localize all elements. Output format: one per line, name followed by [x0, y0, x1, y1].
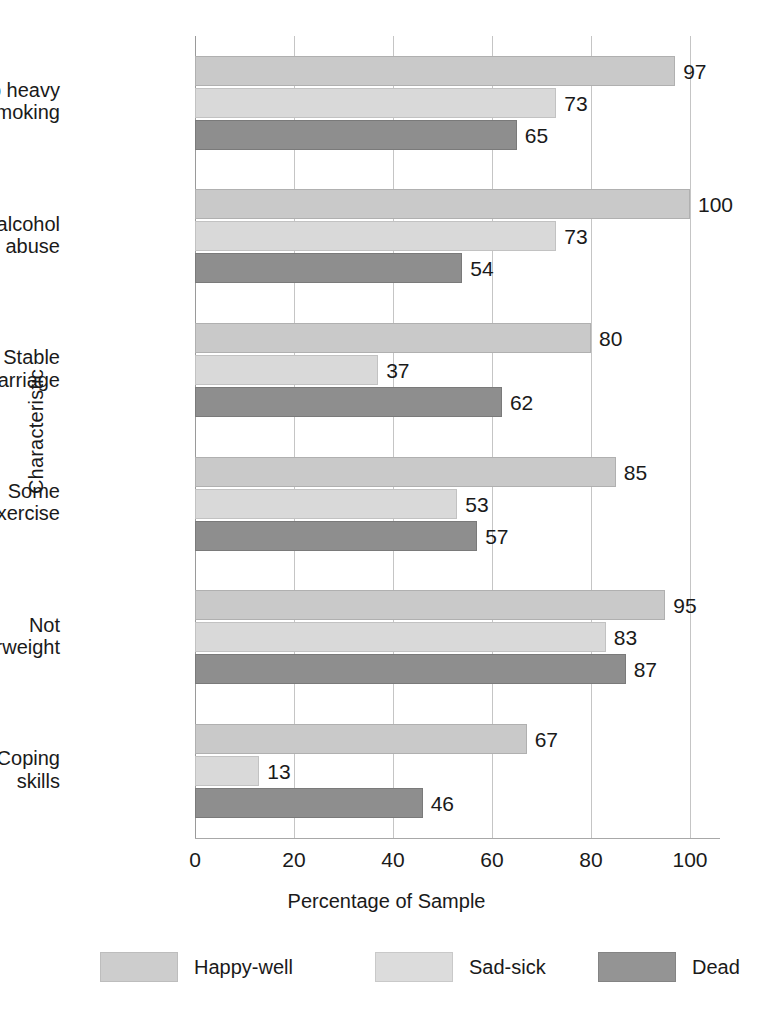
bar-value-label: 53 [465, 494, 488, 515]
bar-value-label: 46 [431, 793, 454, 814]
bar-sad-sick [195, 355, 378, 385]
category-label: No alcoholabuse [0, 213, 60, 258]
category-label: Notoverweight [0, 614, 60, 659]
bar-sad-sick [195, 756, 259, 786]
legend-label: Sad-sick [469, 956, 546, 979]
bar-dead [195, 253, 462, 283]
bar-value-label: 37 [386, 360, 409, 381]
category-label-line: smoking [0, 101, 60, 123]
bar-group: 977365 [195, 36, 690, 170]
bar-value-label: 100 [698, 194, 733, 215]
category-label-line: Coping [0, 747, 60, 769]
bar-group: 855357 [195, 437, 690, 571]
legend-swatch [598, 952, 676, 982]
bar-sad-sick [195, 622, 606, 652]
bar-value-label: 85 [624, 462, 647, 483]
bar-value-label: 13 [267, 761, 290, 782]
legend-label: Dead [692, 956, 740, 979]
bar-value-label: 87 [634, 659, 657, 680]
x-tick-80: 80 [561, 848, 621, 872]
bar-value-label: 83 [614, 627, 637, 648]
legend: Happy-wellSad-sickDead [0, 952, 773, 998]
category-label: Someexercise [0, 480, 60, 525]
category-label-line: marriage [0, 369, 60, 391]
bar-value-label: 97 [683, 61, 706, 82]
category-label-line: Not [0, 614, 60, 636]
category-label-line: exercise [0, 502, 60, 524]
bar-value-label: 54 [470, 258, 493, 279]
x-tick-100: 100 [660, 848, 720, 872]
bar-sad-sick [195, 489, 457, 519]
plot-area: 9773651007354803762855357958387671346 [195, 36, 690, 838]
category-label-line: overweight [0, 636, 60, 658]
legend-item-happy-well: Happy-well [100, 952, 293, 982]
bar-happy-well [195, 590, 665, 620]
legend-swatch [375, 952, 453, 982]
bar-happy-well [195, 56, 675, 86]
category-label-line: No alcohol [0, 213, 60, 235]
bar-dead [195, 654, 626, 684]
bar-value-label: 95 [673, 595, 696, 616]
x-axis-title: Percentage of Sample [0, 890, 773, 913]
category-label-line: abuse [0, 235, 60, 257]
bar-happy-well [195, 323, 591, 353]
legend-swatch [100, 952, 178, 982]
bar-group: 803762 [195, 303, 690, 437]
bar-value-label: 73 [564, 93, 587, 114]
legend-item-dead: Dead [598, 952, 740, 982]
bar-happy-well [195, 724, 527, 754]
bar-dead [195, 120, 517, 150]
category-label: Stablemarriage [0, 346, 60, 391]
bar-group: 958387 [195, 571, 690, 705]
bar-groups: 9773651007354803762855357958387671346 [195, 36, 690, 838]
x-tick-0: 0 [165, 848, 225, 872]
bar-value-label: 65 [525, 125, 548, 146]
category-label: No heavysmoking [0, 79, 60, 124]
bar-chart-figure: Characteristic 9773651007354803762855357… [0, 0, 773, 1027]
x-tick-60: 60 [462, 848, 522, 872]
gridline-100 [690, 36, 691, 838]
category-label-line: Some [0, 480, 60, 502]
bar-happy-well [195, 457, 616, 487]
bar-group: 671346 [195, 704, 690, 838]
bar-dead [195, 788, 423, 818]
category-label-line: No heavy [0, 79, 60, 101]
category-label: Copingskills [0, 747, 60, 792]
x-tick-20: 20 [264, 848, 324, 872]
bar-sad-sick [195, 88, 556, 118]
bar-happy-well [195, 189, 690, 219]
category-label-line: Stable [0, 346, 60, 368]
legend-item-sad-sick: Sad-sick [375, 952, 546, 982]
bar-value-label: 67 [535, 729, 558, 750]
bar-value-label: 73 [564, 226, 587, 247]
x-tick-40: 40 [363, 848, 423, 872]
category-label-line: skills [0, 770, 60, 792]
x-axis-line [195, 838, 720, 839]
bar-dead [195, 521, 477, 551]
bar-dead [195, 387, 502, 417]
bar-value-label: 80 [599, 328, 622, 349]
bar-value-label: 57 [485, 526, 508, 547]
bar-value-label: 62 [510, 392, 533, 413]
legend-label: Happy-well [194, 956, 293, 979]
bar-group: 1007354 [195, 170, 690, 304]
bar-sad-sick [195, 221, 556, 251]
